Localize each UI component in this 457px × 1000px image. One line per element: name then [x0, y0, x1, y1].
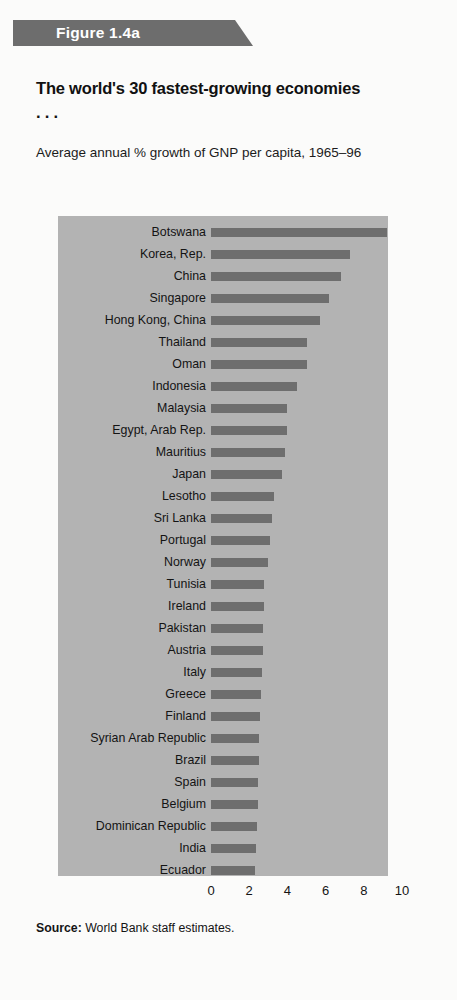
x-axis-tick-label: 2: [246, 882, 253, 900]
bar-category-label: Singapore: [150, 288, 207, 309]
bar-category-label: Greece: [165, 684, 206, 705]
bar-category-label: Botswana: [152, 222, 206, 243]
bar-row: Portugal: [58, 530, 388, 551]
x-axis-tick-label: 8: [360, 882, 367, 900]
bar: [211, 668, 262, 678]
bar-category-label: Austria: [167, 640, 206, 661]
bar-category-label: Egypt, Arab Rep.: [112, 420, 206, 441]
source-label: Source:: [36, 921, 82, 935]
bar-row: Belgium: [58, 794, 388, 815]
bar: [211, 822, 257, 832]
bar-row: Finland: [58, 706, 388, 727]
bar-category-label: Syrian Arab Republic: [90, 728, 206, 749]
bar-row: India: [58, 838, 388, 859]
bar: [211, 690, 261, 700]
figure-title: The world's 30 fastest-growing economies…: [36, 76, 366, 124]
bar-category-label: Dominican Republic: [96, 816, 206, 837]
bar-row: Pakistan: [58, 618, 388, 639]
bar-row: Malaysia: [58, 398, 388, 419]
bar-category-label: Oman: [172, 354, 206, 375]
bar: [211, 580, 264, 590]
bar-category-label: Portugal: [160, 530, 206, 551]
bar: [211, 536, 270, 546]
bar-row: Italy: [58, 662, 388, 683]
bar: [211, 734, 259, 744]
bar: [211, 228, 387, 238]
bar: [211, 316, 320, 326]
bar: [211, 558, 268, 568]
bar-category-label: Malaysia: [157, 398, 206, 419]
bar-row: Singapore: [58, 288, 388, 309]
bar: [211, 778, 258, 788]
bar-row: Syrian Arab Republic: [58, 728, 388, 749]
bar-category-label: Ireland: [168, 596, 206, 617]
bar-row: Korea, Rep.: [58, 244, 388, 265]
bar-category-label: Pakistan: [158, 618, 206, 639]
bar-row: Indonesia: [58, 376, 388, 397]
figure-subtitle: Average annual % growth of GNP per capit…: [36, 140, 396, 165]
bar-row: Botswana: [58, 222, 388, 243]
bar-category-label: Belgium: [161, 794, 206, 815]
x-axis-tick-label: 10: [395, 882, 409, 900]
bar-row: Greece: [58, 684, 388, 705]
bar: [211, 492, 274, 502]
bar-category-label: Sri Lanka: [154, 508, 206, 529]
bar-category-label: India: [179, 838, 206, 859]
figure-page: Figure 1.4a The world's 30 fastest-growi…: [0, 0, 457, 1000]
bar-row: Dominican Republic: [58, 816, 388, 837]
bar-row: Lesotho: [58, 486, 388, 507]
bar-row: Sri Lanka: [58, 508, 388, 529]
bar: [211, 514, 272, 524]
bar-row: Oman: [58, 354, 388, 375]
bar-row: Japan: [58, 464, 388, 485]
bar-row: Ecuador: [58, 860, 388, 881]
bar: [211, 624, 263, 634]
bar-row: Spain: [58, 772, 388, 793]
bar-category-label: Tunisia: [167, 574, 206, 595]
x-axis-tick-label: 4: [284, 882, 291, 900]
bar-row: Tunisia: [58, 574, 388, 595]
bar: [211, 646, 263, 656]
bar-row: China: [58, 266, 388, 287]
bar-category-label: Italy: [183, 662, 206, 683]
bar: [211, 360, 307, 370]
bar-row: Austria: [58, 640, 388, 661]
bar-row: Ireland: [58, 596, 388, 617]
bar-category-label: Korea, Rep.: [140, 244, 206, 265]
bar: [211, 426, 287, 436]
bar: [211, 448, 285, 458]
bar: [211, 272, 341, 282]
bar: [211, 866, 255, 876]
figure-number-label: Figure 1.4a: [56, 24, 140, 42]
bar-category-label: Mauritius: [156, 442, 206, 463]
bar: [211, 756, 259, 766]
bar-category-label: Norway: [164, 552, 206, 573]
bar-row: Egypt, Arab Rep.: [58, 420, 388, 441]
bar-category-label: Indonesia: [152, 376, 206, 397]
bar: [211, 602, 264, 612]
bar-category-label: Lesotho: [162, 486, 206, 507]
x-axis-tick-label: 0: [207, 882, 214, 900]
bar: [211, 382, 297, 392]
bar: [211, 800, 258, 810]
bar-row: Hong Kong, China: [58, 310, 388, 331]
bar: [211, 470, 282, 480]
bar-row: Thailand: [58, 332, 388, 353]
bar-category-label: Ecuador: [160, 860, 206, 881]
bar-row: Brazil: [58, 750, 388, 771]
bar: [211, 844, 256, 854]
bar-category-label: Brazil: [175, 750, 206, 771]
bar-row: Mauritius: [58, 442, 388, 463]
bar-category-label: Japan: [172, 464, 206, 485]
x-axis: 0246810: [58, 882, 388, 902]
x-axis-tick-label: 6: [322, 882, 329, 900]
bar-category-label: China: [174, 266, 206, 287]
bar: [211, 712, 260, 722]
bar: [211, 338, 307, 348]
source-text: World Bank staff estimates.: [85, 921, 234, 935]
bar: [211, 250, 350, 260]
bar: [211, 294, 329, 304]
bar-category-label: Spain: [174, 772, 206, 793]
bar-rows-container: BotswanaKorea, Rep.ChinaSingaporeHong Ko…: [58, 216, 388, 876]
bar-category-label: Finland: [165, 706, 206, 727]
